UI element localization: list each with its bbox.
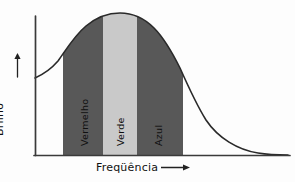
band-azul xyxy=(137,0,183,155)
y-axis-label: Brilho xyxy=(0,103,6,136)
y-axis-label-group: Brilho xyxy=(4,24,30,136)
x-axis-label-group: Freqüência xyxy=(96,161,191,174)
shaded-band-region xyxy=(63,0,183,155)
spectral-brightness-figure: Brilho Freqüência Vermelho Verde Azul xyxy=(0,0,295,182)
band-verde xyxy=(103,0,137,155)
right-arrow-icon xyxy=(161,163,191,172)
up-arrow-icon xyxy=(13,52,22,78)
band-vermelho xyxy=(63,0,103,155)
x-axis-label: Freqüência xyxy=(96,161,158,174)
chart-canvas xyxy=(0,0,295,182)
